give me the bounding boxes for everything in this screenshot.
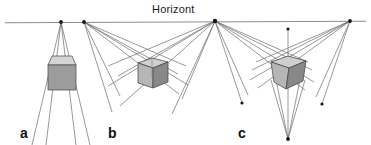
panel-c-aux-point-top bbox=[286, 27, 289, 30]
shared-vanishing-point bbox=[213, 19, 217, 23]
panel-c-aux-point-left bbox=[240, 101, 243, 104]
diagram-canvas bbox=[0, 0, 371, 145]
panel-label-a: a bbox=[20, 126, 28, 140]
panel-c-cube bbox=[271, 56, 306, 89]
panel-b-group bbox=[82, 20, 215, 114]
panel-c-vanishing-point-bottom bbox=[286, 137, 290, 141]
panel-a-cube-front-face bbox=[48, 65, 76, 90]
panel-c-aux-point-right bbox=[320, 102, 323, 105]
panel-label-b: b bbox=[108, 126, 117, 140]
panel-a-cube-top-face bbox=[48, 56, 76, 65]
panel-a-vanishing-point bbox=[59, 20, 63, 24]
perspective-diagram-figure: Horizont a b c bbox=[0, 0, 371, 145]
panel-c-group bbox=[215, 19, 352, 141]
panel-a-cube bbox=[48, 56, 76, 90]
panel-label-c: c bbox=[238, 126, 246, 140]
panel-c-vanishing-point-right bbox=[348, 19, 352, 23]
horizon-label: Horizont bbox=[152, 3, 195, 15]
panel-b-cube bbox=[138, 58, 168, 88]
panel-a-group bbox=[32, 20, 90, 145]
panel-b-vanishing-point-left bbox=[82, 20, 86, 24]
